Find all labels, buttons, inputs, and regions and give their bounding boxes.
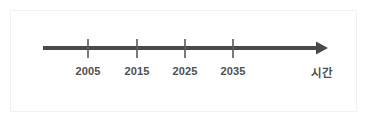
timeline-figure: 2005 2015 2025 2035 시간 bbox=[0, 0, 368, 125]
axis-arrowhead-icon bbox=[316, 42, 328, 55]
axis-title-time: 시간 bbox=[294, 64, 350, 80]
tick-label-2025: 2025 bbox=[159, 65, 211, 77]
tick-label-2005: 2005 bbox=[62, 65, 114, 77]
tick-label-2015: 2015 bbox=[111, 65, 163, 77]
timeline-axis-graphic bbox=[0, 0, 368, 125]
tick-label-2035: 2035 bbox=[207, 65, 259, 77]
